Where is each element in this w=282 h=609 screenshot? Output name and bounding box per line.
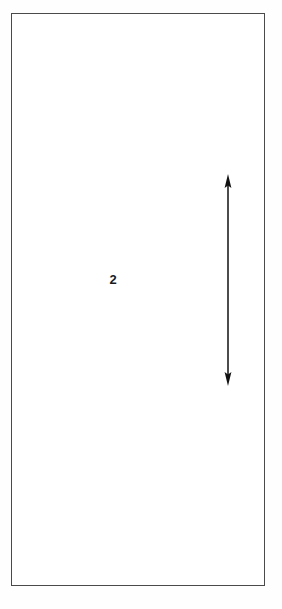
reference-numeral-label: 2 <box>104 272 122 287</box>
rectangular-object-outline <box>11 13 265 586</box>
figure-canvas: 2 <box>0 0 282 609</box>
